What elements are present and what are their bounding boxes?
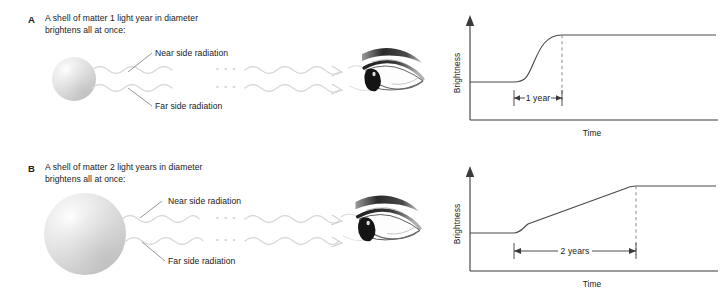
near-side-label-b: Near side radiation — [168, 196, 241, 206]
chart-a-measure-arrow-right — [556, 95, 562, 101]
shell-sphere-b — [44, 193, 126, 275]
chart-b-x-label: Time — [583, 279, 602, 289]
sphere-shading-b — [44, 193, 126, 275]
wave-far-b-seg2 — [245, 238, 339, 245]
shell-sphere-a — [52, 57, 96, 101]
chart-a-duration-label: 1 year — [526, 93, 551, 103]
chart-b-y-axis-arrow — [466, 166, 474, 177]
leader-line-near-a — [128, 53, 152, 72]
leader-line-far-b — [142, 242, 165, 261]
panel-a-caption: A shell of matter 1 light year in diamet… — [45, 13, 225, 36]
near-side-label-a: Near side radiation — [155, 48, 228, 58]
far-side-label-a: Far side radiation — [155, 101, 222, 111]
wave-near-a-seg1 — [92, 67, 172, 74]
figure-root: A A shell of matter 1 light year in diam… — [0, 0, 725, 298]
chart-b-curve — [470, 186, 716, 233]
wave-ellipsis-far-a: • • • — [216, 82, 237, 91]
panel-b-letter: B — [28, 163, 35, 174]
chart-a-y-label: Brightness — [452, 53, 462, 94]
wave-far-a-seg1 — [92, 85, 172, 92]
wave-near-b-seg1 — [122, 216, 199, 223]
chart-a-measure-arrow-left — [514, 95, 520, 101]
far-side-label-b: Far side radiation — [168, 256, 235, 266]
wave-arrowhead-near-a — [331, 66, 342, 76]
chart-b-measure-arrow-right — [629, 248, 636, 254]
chart-a-y-axis-arrow — [466, 15, 474, 26]
chart-b-duration-label: 2 years — [561, 246, 590, 256]
chart-b-measure-arrow-left — [514, 248, 521, 254]
wave-near-b-seg2 — [245, 216, 339, 224]
chart-brightness-vs-time-a: 1 year Brightness Time — [452, 10, 720, 142]
observer-eye-b — [338, 185, 430, 261]
observer-eye-a — [346, 38, 432, 110]
wave-ellipsis-near-b: • • • — [216, 213, 237, 222]
panel-b: B A shell of matter 2 light years in dia… — [0, 149, 725, 298]
chart-b-y-label: Brightness — [452, 204, 462, 245]
chart-brightness-vs-time-b: 2 years Brightness Time — [452, 161, 720, 293]
wave-ellipsis-near-a: • • • — [216, 64, 237, 73]
chart-a-x-label: Time — [583, 128, 602, 138]
sphere-shading-a — [52, 57, 96, 101]
panel-a-letter: A — [28, 14, 35, 25]
wave-near-a-seg2 — [245, 67, 339, 75]
wave-arrowhead-far-a — [331, 84, 342, 94]
wave-ellipsis-far-b: • • • — [216, 235, 237, 244]
leader-line-far-a — [128, 88, 152, 106]
wave-far-a-seg2 — [245, 85, 339, 93]
wave-far-b-seg1 — [126, 238, 203, 245]
panel-b-caption: A shell of matter 2 light years in diame… — [45, 162, 205, 185]
leader-line-near-b — [140, 201, 162, 218]
panel-a: A A shell of matter 1 light year in diam… — [0, 0, 725, 149]
chart-a-curve — [470, 35, 716, 82]
